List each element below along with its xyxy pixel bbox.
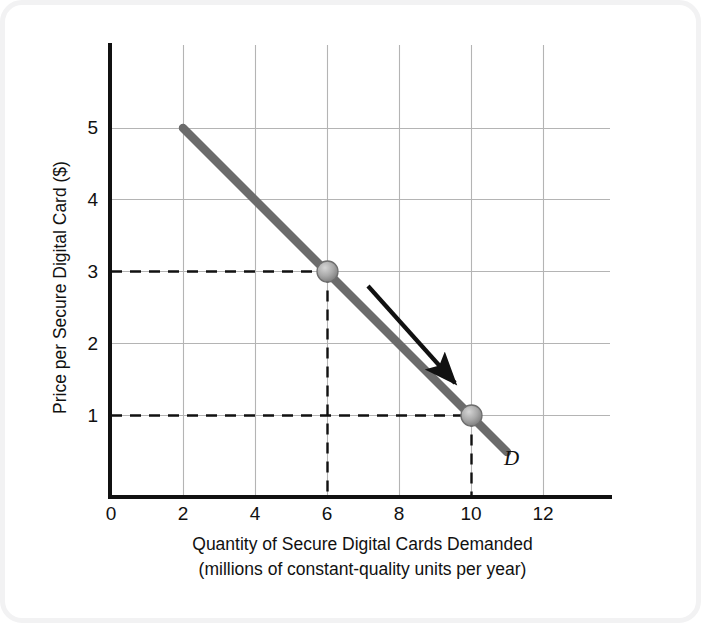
data-point-marker-6-3 (317, 261, 338, 282)
x-axis-title-line2: (millions of constant-quality units per … (110, 557, 615, 582)
x-axis-title-line1: Quantity of Secure Digital Cards Demande… (110, 532, 615, 557)
y-tick-label-5: 5 (72, 117, 98, 139)
y-tick-label-4: 4 (72, 189, 98, 211)
y-tick-label-1: 1 (72, 405, 98, 427)
y-tick-label-3: 3 (72, 261, 98, 283)
x-tick-label-4: 4 (238, 503, 272, 525)
y-axis-title-text: Price per Secure Digital Card ($) (50, 161, 70, 414)
figure-frame: 5 4 3 2 1 0 2 4 6 8 10 12 D Price per Se… (0, 0, 701, 623)
demand-curve (183, 128, 507, 452)
dashed-guide-lines (111, 272, 472, 498)
x-tick-label-0: 0 (94, 503, 128, 525)
data-point-marker-10-1 (461, 405, 482, 426)
movement-along-curve-arrow (368, 286, 455, 383)
x-tick-label-2: 2 (166, 503, 200, 525)
horizontal-gridlines (110, 129, 610, 416)
demand-curve-label: D (504, 446, 519, 471)
x-tick-label-6: 6 (310, 503, 344, 525)
y-tick-label-2: 2 (72, 333, 98, 355)
x-tick-label-12: 12 (526, 503, 560, 525)
y-axis-title: Price per Secure Digital Card ($) (50, 78, 71, 498)
demand-curve-chart (5, 5, 701, 623)
x-tick-label-8: 8 (382, 503, 416, 525)
x-axis-title: Quantity of Secure Digital Cards Demande… (110, 532, 615, 582)
x-tick-label-10: 10 (454, 503, 488, 525)
